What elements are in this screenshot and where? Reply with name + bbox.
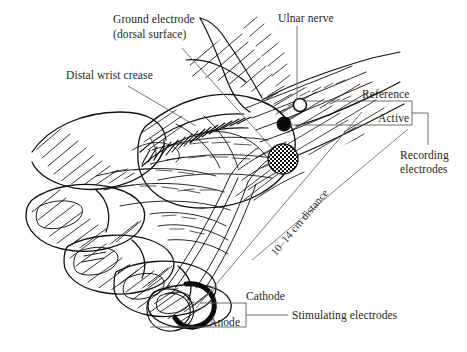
label-ground-electrode-sub: (dorsal surface) — [113, 28, 186, 41]
label-stimulating-electrodes: Stimulating electrodes — [292, 309, 397, 322]
active-electrode-marker — [277, 117, 291, 131]
label-recording-electrodes-line2: electrodes — [400, 163, 448, 176]
ground-electrode-marker — [268, 144, 298, 174]
hand-illustration — [0, 0, 467, 352]
label-active: Active — [378, 112, 409, 125]
label-recording-electrodes-line1: Recording — [400, 149, 449, 162]
label-distal-wrist-crease: Distal wrist crease — [66, 69, 153, 82]
label-ulnar-nerve: Ulnar nerve — [278, 12, 334, 25]
label-cathode: Cathode — [246, 290, 285, 303]
label-reference: Reference — [362, 88, 410, 101]
label-anode: Anode — [209, 316, 240, 329]
reference-electrode-marker — [294, 99, 307, 112]
ulnar-nerve-electrode-diagram: Ground electrode (dorsal surface) Distal… — [0, 0, 467, 352]
label-ground-electrode: Ground electrode — [113, 13, 195, 26]
